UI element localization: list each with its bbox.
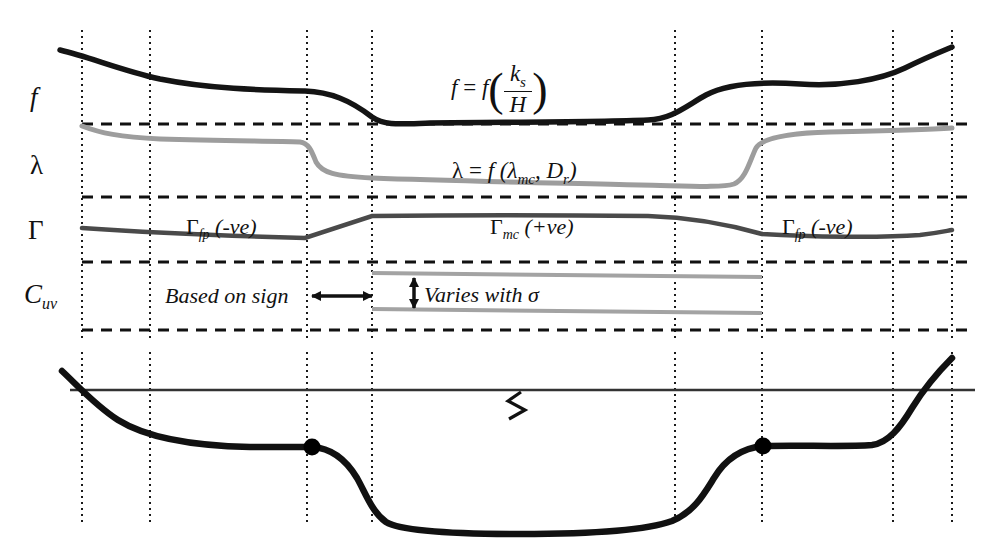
curve-cuv-lower: [372, 309, 762, 313]
equation-f-lhs: f: [451, 75, 457, 100]
equation-lambda-lhs: λ: [452, 158, 463, 183]
label-based-on-sign: Based on sign: [165, 283, 288, 309]
row-label-lambda: λ: [30, 150, 43, 181]
bed-marker-left: [304, 439, 321, 456]
equation-f-numerator: ks: [504, 62, 533, 92]
row-label-cuv-sub: uv: [42, 295, 57, 312]
equation-lambda: λ = f (λmc, Dr): [452, 158, 577, 188]
bed-marker-right: [755, 438, 772, 455]
equation-lambda-arg-mid: , D: [535, 158, 563, 183]
bed-profile-curve: [62, 358, 952, 534]
label-gamma-mc-mid: Γmc (+ve): [490, 214, 574, 243]
label-varies-with-sigma: Varies with σ: [424, 282, 539, 308]
label-gamma-fp-right: Γfp (-ve): [782, 214, 853, 243]
equation-f-relation: =: [463, 75, 476, 100]
diagram-canvas: f λ Γ Cuv f = f(ksH) λ = f (λmc, Dr) Γfp…: [0, 0, 990, 557]
vertical-gridlines-lower: [82, 352, 952, 523]
equation-f-paren-close: ): [532, 68, 547, 112]
equation-f-fraction: ksH: [504, 62, 533, 117]
equation-lambda-close: ): [569, 158, 577, 183]
curve-cuv-upper: [372, 273, 762, 277]
break-zigzag-icon: [508, 392, 525, 419]
equation-lambda-args-open: (λ: [500, 158, 518, 183]
label-gamma-fp-left: Γfp (-ve): [186, 214, 257, 243]
row-label-cuv: Cuv: [24, 279, 57, 313]
equation-lambda-sub-mc: mc: [517, 171, 535, 187]
equation-lambda-function: f: [488, 158, 494, 183]
row-label-gamma: Γ: [28, 215, 44, 246]
equation-lambda-relation: =: [469, 158, 482, 183]
equation-f: f = f(ksH): [451, 62, 548, 117]
equation-f-denominator: H: [504, 92, 533, 117]
equation-f-paren-open: (: [488, 68, 503, 112]
row-label-f: f: [30, 82, 38, 113]
